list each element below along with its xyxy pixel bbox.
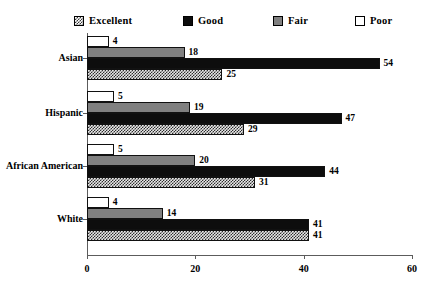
bar-fair[interactable] xyxy=(87,102,190,113)
bar-poor[interactable] xyxy=(87,91,114,102)
category-label: Asian xyxy=(59,53,83,63)
bar-value-label: 31 xyxy=(259,178,269,188)
bar-row: 47 xyxy=(87,113,412,124)
checkered-swatch-icon xyxy=(74,16,84,26)
bar-value-label: 18 xyxy=(189,48,199,58)
bar-row: 5 xyxy=(87,91,412,102)
x-tick-mark xyxy=(87,255,88,259)
bar-row: 19 xyxy=(87,102,412,113)
solid-black-swatch-icon xyxy=(183,16,193,26)
bar-row: 41 xyxy=(87,219,412,230)
bar-row: 18 xyxy=(87,47,412,58)
bar-row: 14 xyxy=(87,208,412,219)
legend-label-excellent: Excellent xyxy=(89,16,132,27)
x-tick-label: 0 xyxy=(85,263,90,274)
legend-label-poor: Poor xyxy=(370,16,392,27)
bar-value-label: 29 xyxy=(248,125,258,135)
bar-excellent[interactable] xyxy=(87,69,222,80)
bar-row: 4 xyxy=(87,36,412,47)
bar-group: Hispanic5194729 xyxy=(87,91,412,135)
bar-value-label: 4 xyxy=(113,37,118,47)
bar-value-label: 19 xyxy=(194,103,204,113)
bar-good[interactable] xyxy=(87,58,380,69)
legend-item-poor: Poor xyxy=(355,14,392,28)
bar-value-label: 5 xyxy=(118,145,123,155)
x-tick-mark xyxy=(412,255,413,259)
bar-row: 20 xyxy=(87,155,412,166)
bar-value-label: 4 xyxy=(113,198,118,208)
solid-gray-swatch-icon xyxy=(273,16,283,26)
bar-chart: Excellent Good Fair Poor 0204060 Asian41… xyxy=(0,0,440,284)
bar-fair[interactable] xyxy=(87,47,185,58)
x-tick-label: 20 xyxy=(190,263,200,274)
category-label: White xyxy=(57,214,83,224)
bar-group: Asian4185425 xyxy=(87,36,412,80)
x-tick-mark xyxy=(304,255,305,259)
bar-row: 41 xyxy=(87,230,412,241)
bar-row: 5 xyxy=(87,144,412,155)
legend-item-fair: Fair xyxy=(273,14,308,28)
x-tick-label: 40 xyxy=(299,263,309,274)
bar-good[interactable] xyxy=(87,219,309,230)
legend-item-good: Good xyxy=(183,14,223,28)
bar-value-label: 25 xyxy=(226,70,236,80)
bar-poor[interactable] xyxy=(87,36,109,47)
bar-poor[interactable] xyxy=(87,144,114,155)
bar-value-label: 47 xyxy=(346,114,356,124)
bar-row: 31 xyxy=(87,177,412,188)
bar-row: 44 xyxy=(87,166,412,177)
empty-white-swatch-icon xyxy=(355,16,365,26)
bar-value-label: 41 xyxy=(313,220,323,230)
bar-good[interactable] xyxy=(87,166,325,177)
bar-excellent[interactable] xyxy=(87,177,255,188)
bar-poor[interactable] xyxy=(87,197,109,208)
x-tick-mark xyxy=(195,255,196,259)
bar-value-label: 54 xyxy=(384,59,394,69)
bar-excellent[interactable] xyxy=(87,230,309,241)
bar-value-label: 14 xyxy=(167,209,177,219)
x-axis-line xyxy=(87,255,412,256)
bar-group: African American5204431 xyxy=(87,144,412,188)
bar-value-label: 44 xyxy=(329,167,339,177)
chart-legend: Excellent Good Fair Poor xyxy=(0,14,440,30)
category-label: Hispanic xyxy=(45,108,83,118)
bar-fair[interactable] xyxy=(87,208,163,219)
plot-area: 0204060 Asian4185425Hispanic5194729Afric… xyxy=(87,33,412,255)
bar-excellent[interactable] xyxy=(87,124,244,135)
bar-row: 54 xyxy=(87,58,412,69)
bar-group: White4144141 xyxy=(87,197,412,241)
legend-label-fair: Fair xyxy=(288,16,308,27)
bar-row: 29 xyxy=(87,124,412,135)
bar-good[interactable] xyxy=(87,113,342,124)
bar-value-label: 41 xyxy=(313,231,323,241)
bar-row: 25 xyxy=(87,69,412,80)
legend-item-excellent: Excellent xyxy=(74,14,132,28)
bar-fair[interactable] xyxy=(87,155,195,166)
bar-value-label: 5 xyxy=(118,92,123,102)
legend-label-good: Good xyxy=(198,16,223,27)
x-tick-label: 60 xyxy=(407,263,417,274)
bar-row: 4 xyxy=(87,197,412,208)
category-label: African American xyxy=(6,161,83,171)
bar-value-label: 20 xyxy=(199,156,209,166)
